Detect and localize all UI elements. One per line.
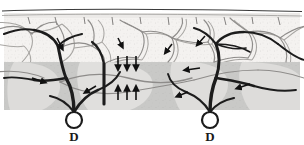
node-d-right bbox=[202, 112, 218, 128]
node-d-left bbox=[66, 112, 82, 128]
label-d-right: D bbox=[205, 129, 214, 144]
histology-figure: D D bbox=[0, 0, 304, 145]
layer-subcutis bbox=[0, 110, 304, 145]
label-d-left: D bbox=[69, 129, 78, 144]
figure-canvas: D D bbox=[0, 0, 304, 145]
